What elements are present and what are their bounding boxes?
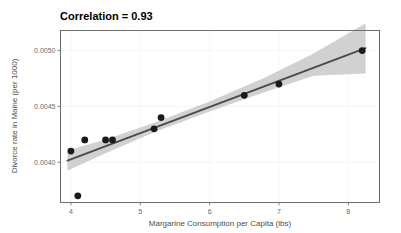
scatter-plot: Correlation = 0.93 45678 0.00400.00450.0… — [0, 0, 401, 233]
data-point — [241, 92, 248, 99]
data-point — [74, 192, 81, 199]
x-tick-label: 5 — [138, 208, 142, 215]
x-tick-label: 6 — [208, 208, 212, 215]
data-point — [276, 81, 283, 88]
x-tick-label: 4 — [69, 208, 73, 215]
data-point — [151, 125, 158, 132]
y-axis-title: Divorce rate in Maine (per 1000) — [10, 58, 19, 173]
x-tick-label: 7 — [277, 208, 281, 215]
data-point — [359, 47, 366, 54]
data-point — [68, 148, 75, 155]
data-point — [102, 137, 109, 144]
chart-title: Correlation = 0.93 — [60, 10, 153, 22]
chart-container: Correlation = 0.93 45678 0.00400.00450.0… — [0, 0, 401, 233]
y-tick-label: 0.0050 — [34, 47, 56, 54]
y-tick-label: 0.0045 — [34, 103, 56, 110]
x-tick-label: 8 — [346, 208, 350, 215]
data-point — [81, 137, 88, 144]
data-point — [158, 114, 165, 121]
plot-panel — [61, 23, 380, 202]
x-axis-title: Margarine Consumption per Capita (lbs) — [149, 219, 292, 228]
data-point — [109, 137, 116, 144]
y-tick-label: 0.0040 — [34, 159, 56, 166]
